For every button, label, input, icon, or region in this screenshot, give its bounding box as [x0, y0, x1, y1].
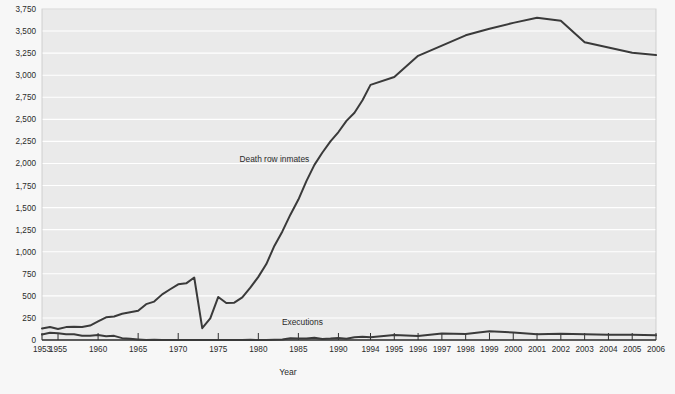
x-tick-label: 2005	[623, 345, 642, 354]
plot-background	[42, 9, 656, 340]
x-tick-label: 2000	[504, 345, 523, 354]
x-tick-label: 1998	[457, 345, 476, 354]
line-chart: 02505007501,0001,2501,5001,7502,0002,250…	[0, 0, 675, 394]
y-tick-label: 3,500	[16, 27, 37, 36]
x-tick-label: 2003	[576, 345, 595, 354]
y-tick-label: 1,750	[16, 182, 37, 191]
x-tick-label: 2002	[552, 345, 571, 354]
x-tick-label: 1985	[289, 345, 308, 354]
x-tick-label: 2006	[647, 345, 666, 354]
y-tick-label: 1,250	[16, 226, 37, 235]
y-tick-label: 0	[31, 336, 36, 345]
x-tick-label: 2004	[599, 345, 618, 354]
y-tick-label: 3,000	[16, 71, 37, 80]
x-tick-label: 1955	[49, 345, 68, 354]
chart-figure: 02505007501,0001,2501,5001,7502,0002,250…	[0, 0, 675, 394]
x-tick-label: 1997	[433, 345, 452, 354]
y-tick-label: 2,500	[16, 115, 37, 124]
y-tick-label: 750	[22, 270, 36, 279]
x-tick-label: 1965	[129, 345, 148, 354]
y-tick-label: 3,250	[16, 49, 37, 58]
x-tick-label: 1975	[209, 345, 228, 354]
x-tick-label: 1980	[249, 345, 268, 354]
y-tick-label: 1,000	[16, 248, 37, 257]
x-tick-label: 1970	[169, 345, 188, 354]
y-axis-tick-labels: 02505007501,0001,2501,5001,7502,0002,250…	[16, 5, 37, 345]
series-label: Death row inmates	[239, 154, 309, 164]
series-label: Executions	[282, 317, 323, 327]
x-axis-title: Year	[279, 367, 297, 377]
x-tick-label: 1990	[329, 345, 348, 354]
y-tick-label: 3,750	[16, 5, 37, 14]
x-tick-label: 1994	[361, 345, 380, 354]
x-tick-label: 1995	[385, 345, 404, 354]
x-tick-label: 1996	[409, 345, 428, 354]
y-tick-label: 500	[22, 292, 36, 301]
x-tick-label: 1960	[89, 345, 108, 354]
x-axis-tick-labels: 1953195519601965197019751980198519901994…	[33, 345, 666, 354]
x-tick-label: 2001	[528, 345, 547, 354]
y-tick-label: 250	[22, 314, 36, 323]
x-tick-label: 1999	[480, 345, 499, 354]
y-tick-label: 1,500	[16, 204, 37, 213]
y-tick-label: 2,000	[16, 159, 37, 168]
y-tick-label: 2,250	[16, 137, 37, 146]
y-tick-label: 2,750	[16, 93, 37, 102]
